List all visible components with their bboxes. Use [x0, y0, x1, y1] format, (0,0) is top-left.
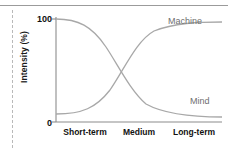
x-axis-label-short-term: Short-term — [52, 127, 118, 137]
y-axis-label-100: 100 — [26, 14, 52, 24]
y-axis-title: Intensity (%) — [19, 17, 29, 97]
x-axis-label-medium: Medium — [112, 127, 166, 137]
chart-figure: Intensity (%) 100 0 Short-term Medium Lo… — [0, 0, 228, 148]
y-axis-label-0: 0 — [32, 118, 52, 128]
x-axis-label-long-term: Long-term — [163, 127, 225, 137]
chart-plot-area: Intensity (%) 100 0 Short-term Medium Lo… — [0, 0, 228, 148]
series-label-machine: Machine — [168, 16, 202, 26]
series-label-mind: Mind — [190, 96, 210, 106]
